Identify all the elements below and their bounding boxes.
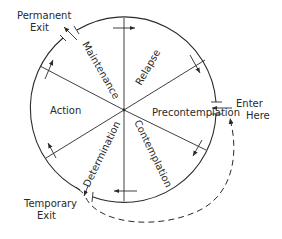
stage-label-relapse: Relapse: [133, 47, 162, 87]
enter-label-line1: Enter: [236, 98, 264, 109]
stages-of-change-wheel: Precontemplation Contemplation Determina…: [0, 0, 282, 239]
temporary-exit-label-line2: Exit: [37, 210, 56, 221]
permanent-exit-arrow-icon: [64, 27, 77, 40]
arrow-lower-right-icon: [193, 140, 202, 156]
stage-label-precontemplation: Precontemplation: [152, 107, 240, 118]
stage-label-determination: Determination: [81, 119, 122, 189]
stage-label-maintenance: Maintenance: [80, 40, 122, 101]
stage-label-action: Action: [50, 105, 81, 116]
center-dot: [123, 109, 126, 112]
permanent-exit-label-line1: Permanent: [17, 10, 71, 21]
permanent-exit-label-line2: Exit: [30, 22, 49, 33]
temporary-exit-label-line1: Temporary: [23, 198, 77, 209]
enter-label-line2: Here: [246, 110, 270, 121]
stage-label-contemplation: Contemplation: [132, 118, 174, 189]
